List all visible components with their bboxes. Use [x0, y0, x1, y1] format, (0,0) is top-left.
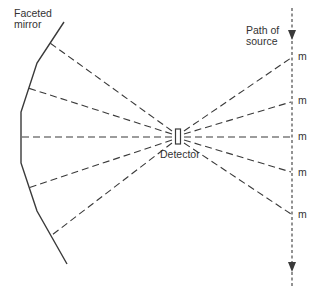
arrow-down-icon [288, 262, 296, 272]
mirror-label: Faceted mirror [14, 8, 52, 30]
marker-label: m [298, 131, 307, 142]
marker-label: m [298, 167, 307, 178]
rays-from-source [184, 58, 291, 214]
source-label: Path of source [246, 25, 279, 47]
arrow-down-icon [288, 30, 296, 40]
detector-label: Detector [160, 149, 200, 160]
marker-label: m [298, 95, 307, 106]
detector [176, 129, 181, 144]
mirror-label-line2: mirror [14, 19, 52, 30]
source-label-line2: source [246, 36, 279, 47]
marker-label: m [298, 51, 307, 62]
marker-label: m [298, 209, 307, 220]
faceted-mirror [21, 22, 67, 264]
rays-to-mirror [21, 43, 172, 235]
